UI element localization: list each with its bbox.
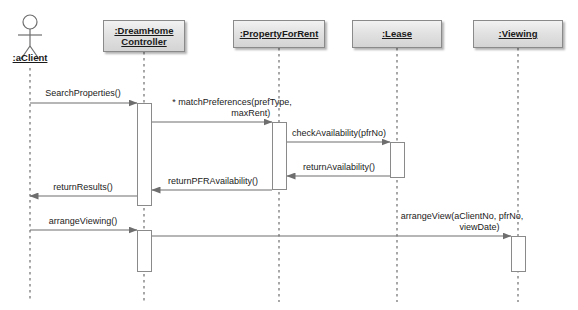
sequence-diagram-canvas: :DreamHomeController:PropertyForRent:Lea… xyxy=(0,0,578,310)
message-returnavailability-label: returnAvailability() xyxy=(224,162,454,173)
lifeline-dreamhome-controller-label: Controller xyxy=(121,36,166,48)
lifeline-lease[interactable]: :Lease xyxy=(352,20,442,48)
actor-head xyxy=(23,15,37,29)
activation-controller-search[interactable] xyxy=(137,103,152,206)
lifeline-propertyforrent-label: :PropertyForRent xyxy=(240,28,319,40)
activation-propertyforrent-match[interactable] xyxy=(272,122,287,190)
lifeline-viewing[interactable]: :Viewing xyxy=(473,20,563,48)
message-checkavailability-label: checkAvailability(pfrNo) xyxy=(224,128,454,139)
lifeline-dreamhome-controller-label: :DreamHome xyxy=(114,25,173,37)
message-arrangeviewing-label: arrangeViewing() xyxy=(0,216,198,227)
activation-viewing-arrange[interactable] xyxy=(511,236,526,272)
lifeline-dreamhome-controller[interactable]: :DreamHomeController xyxy=(103,20,185,52)
lifeline-lease-label: :Lease xyxy=(382,28,412,40)
message-returnresults-label: returnResults() xyxy=(0,182,198,193)
message-arrangeview-label: arrangeView(aClientNo, pfrNo, viewDate) xyxy=(347,211,577,233)
lifeline-viewing-label: :Viewing xyxy=(499,28,538,40)
actor-label-aclient: :aClient xyxy=(0,52,60,63)
lifeline-propertyforrent[interactable]: :PropertyForRent xyxy=(233,20,325,48)
activation-lease-check[interactable] xyxy=(390,142,405,178)
activation-controller-arrange[interactable] xyxy=(137,230,152,272)
